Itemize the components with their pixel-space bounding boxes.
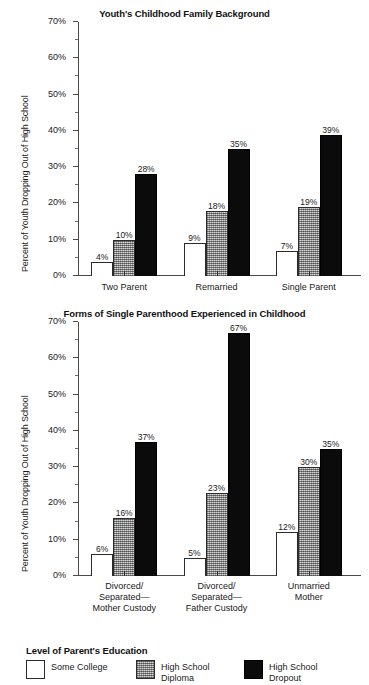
- bar-hs-dropout: 39%: [320, 135, 342, 277]
- x-axis-tick-label: Single Parent: [263, 282, 355, 293]
- y-axis-line: [78, 22, 79, 276]
- bar-hs-dropout: 35%: [228, 149, 250, 276]
- y-axis-minor-tick: [75, 448, 78, 449]
- y-axis-tick: 50%: [73, 394, 78, 395]
- bar-hs-diploma: 23%: [206, 493, 228, 576]
- y-axis-tick: 20%: [73, 202, 78, 203]
- legend-label: High School Diploma: [161, 660, 210, 683]
- y-axis-minor-tick: [75, 557, 78, 558]
- y-axis-tick-label: 60%: [48, 52, 66, 62]
- legend-label: Some College: [51, 660, 108, 673]
- legend-title: Level of Parent's Education: [26, 645, 356, 656]
- chart-youth-childhood-family-background: Youth's Childhood Family Background Perc…: [0, 0, 369, 300]
- y-axis-tick: 10%: [73, 239, 78, 240]
- y-axis-minor-tick: [75, 75, 78, 76]
- bar-value-label: 4%: [96, 252, 108, 262]
- y-axis-tick-label: 10%: [48, 234, 66, 244]
- legend-item-some-college: Some College: [26, 660, 108, 679]
- y-axis-tick: 40%: [73, 430, 78, 431]
- y-axis-tick-label: 60%: [48, 352, 66, 362]
- x-axis-tick-label: Remarried: [170, 282, 262, 293]
- legend-item-hs-dropout: High School Dropout: [244, 660, 318, 683]
- y-axis-tick: 60%: [73, 57, 78, 58]
- bar-hs-dropout: 67%: [228, 333, 250, 576]
- bar-some-college: 7%: [276, 251, 298, 276]
- y-axis-tick-label: 70%: [48, 316, 66, 326]
- bar-value-label: 39%: [322, 125, 339, 135]
- y-axis-minor-tick: [75, 257, 78, 258]
- x-axis-tick-label: Divorced/ Separated— Mother Custody: [78, 581, 170, 614]
- y-axis-tick-label: 70%: [48, 16, 66, 26]
- y-axis-label: Percent of Youth Dropping Out of High Sc…: [20, 95, 30, 272]
- y-axis-tick-label: 40%: [48, 125, 66, 135]
- bar-some-college: 4%: [91, 262, 113, 277]
- bar-value-label: 5%: [188, 548, 200, 558]
- bar-some-college: 12%: [276, 532, 298, 576]
- x-axis-tick-label: Unmarried Mother: [263, 581, 355, 603]
- y-axis-minor-tick: [75, 484, 78, 485]
- bar-value-label: 6%: [96, 544, 108, 554]
- y-axis-minor-tick: [75, 184, 78, 185]
- bar-hs-diploma: 10%: [113, 240, 135, 276]
- y-axis-tick: 0%: [73, 575, 78, 576]
- bar-value-label: 28%: [138, 164, 155, 174]
- y-axis-minor-tick: [75, 521, 78, 522]
- x-axis-tick-label: Two Parent: [78, 282, 170, 293]
- bar-hs-diploma: 19%: [298, 207, 320, 276]
- legend-item-hs-diploma: High School Diploma: [136, 660, 210, 683]
- bar-some-college: 5%: [184, 558, 206, 576]
- bar-hs-diploma: 18%: [206, 211, 228, 276]
- y-axis-tick: 0%: [73, 275, 78, 276]
- legend-label: High School Dropout: [269, 660, 318, 683]
- bar-some-college: 9%: [184, 243, 206, 276]
- y-axis-tick-label: 40%: [48, 425, 66, 435]
- legend-swatch-some-college: [26, 660, 45, 679]
- y-axis-tick-label: 30%: [48, 161, 66, 171]
- y-axis-tick: 50%: [73, 94, 78, 95]
- y-axis-tick-label: 50%: [48, 89, 66, 99]
- bar-value-label: 23%: [208, 483, 225, 493]
- y-axis-tick: 20%: [73, 502, 78, 503]
- y-axis-line: [78, 322, 79, 576]
- bar-hs-dropout: 28%: [135, 174, 157, 276]
- bar-value-label: 10%: [116, 230, 133, 240]
- y-axis-minor-tick: [75, 412, 78, 413]
- y-axis-tick-label: 20%: [48, 197, 66, 207]
- y-axis-minor-tick: [75, 339, 78, 340]
- bar-some-college: 6%: [91, 554, 113, 576]
- legend-swatch-hs-dropout: [244, 660, 263, 679]
- plot-area: 0%10%20%30%40%50%60%70%4%10%28%Two Paren…: [78, 22, 355, 276]
- y-axis-tick-label: 0%: [53, 270, 66, 280]
- bar-hs-diploma: 16%: [113, 518, 135, 576]
- legend-items: Some CollegeHigh School DiplomaHigh Scho…: [26, 660, 356, 685]
- legend-swatch-hs-diploma: [136, 660, 155, 679]
- bar-value-label: 35%: [230, 139, 247, 149]
- bar-value-label: 18%: [208, 201, 225, 211]
- bar-value-label: 67%: [230, 323, 247, 333]
- y-axis-tick: 30%: [73, 166, 78, 167]
- y-axis-minor-tick: [75, 39, 78, 40]
- y-axis-tick-label: 20%: [48, 497, 66, 507]
- chart-forms-of-single-parenthood: Forms of Single Parenthood Experienced i…: [0, 300, 369, 645]
- bar-hs-dropout: 37%: [135, 442, 157, 576]
- x-axis-tick-label: Divorced/ Separated— Father Custody: [170, 581, 262, 614]
- plot-area: 0%10%20%30%40%50%60%70%6%16%37%Divorced/…: [78, 322, 355, 576]
- bar-value-label: 16%: [116, 508, 133, 518]
- y-axis-tick: 10%: [73, 539, 78, 540]
- y-axis-tick: 70%: [73, 321, 78, 322]
- legend: Level of Parent's Education Some College…: [26, 645, 356, 685]
- y-axis-minor-tick: [75, 221, 78, 222]
- y-axis-tick-label: 10%: [48, 534, 66, 544]
- y-axis-tick: 30%: [73, 466, 78, 467]
- bar-value-label: 30%: [300, 457, 317, 467]
- y-axis-tick: 70%: [73, 21, 78, 22]
- y-axis-minor-tick: [75, 375, 78, 376]
- bar-hs-diploma: 30%: [298, 467, 320, 576]
- y-axis-tick-label: 30%: [48, 461, 66, 471]
- bar-value-label: 19%: [300, 197, 317, 207]
- y-axis-tick-label: 0%: [53, 570, 66, 580]
- y-axis-label: Percent of Youth Dropping Out of High Sc…: [20, 395, 30, 572]
- bar-hs-dropout: 35%: [320, 449, 342, 576]
- bar-value-label: 7%: [281, 241, 293, 251]
- y-axis-minor-tick: [75, 148, 78, 149]
